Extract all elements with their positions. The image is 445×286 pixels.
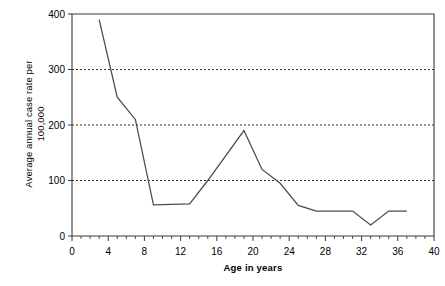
- x-tick-label-16: 16: [211, 246, 223, 257]
- gridlines: [72, 70, 434, 181]
- line-chart-plot: 0100200300400 0481216202428323640: [0, 0, 445, 286]
- x-tick-label-12: 12: [175, 246, 187, 257]
- y-axis-title-line-2: 100,000: [35, 60, 47, 187]
- chart-container: Average annual case rate per 100,000 010…: [0, 0, 445, 286]
- x-tick-label-36: 36: [392, 246, 404, 257]
- x-tick-label-0: 0: [69, 246, 75, 257]
- x-tick-label-4: 4: [105, 246, 111, 257]
- x-axis-ticks: 0481216202428323640: [69, 236, 440, 257]
- y-tick-label-0: 0: [59, 231, 65, 242]
- x-tick-label-24: 24: [284, 246, 296, 257]
- x-tick-label-32: 32: [356, 246, 368, 257]
- y-axis-title: Average annual case rate per 100,000: [14, 0, 56, 248]
- y-axis-title-line-1: Average annual case rate per: [23, 60, 35, 187]
- data-series-group: [99, 20, 407, 225]
- x-axis-title: Age in years: [72, 262, 434, 273]
- x-tick-label-8: 8: [142, 246, 148, 257]
- x-tick-label-28: 28: [320, 246, 332, 257]
- series-line-0: [99, 20, 407, 225]
- x-tick-label-40: 40: [428, 246, 440, 257]
- x-tick-label-20: 20: [247, 246, 259, 257]
